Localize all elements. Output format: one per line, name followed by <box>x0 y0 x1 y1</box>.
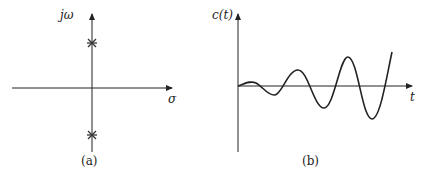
figure-canvas <box>0 0 426 181</box>
caption-a: (a) <box>81 154 98 168</box>
caption-b: (b) <box>302 154 319 168</box>
response-axis-label: c(t) <box>212 8 233 22</box>
s-plane-diagram <box>12 14 172 152</box>
real-axis-label: σ <box>168 92 176 106</box>
time-response-plot <box>238 14 412 152</box>
imaginary-axis-label: jω <box>60 8 74 22</box>
time-axis-label: t <box>410 90 415 104</box>
